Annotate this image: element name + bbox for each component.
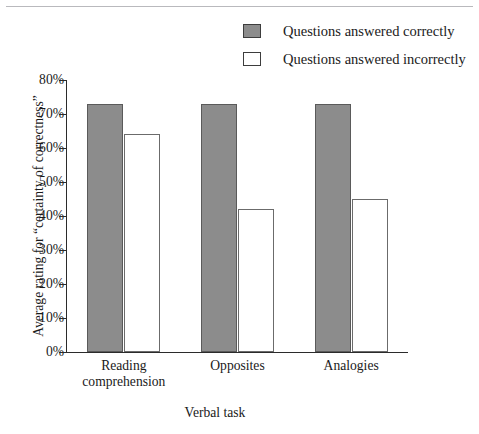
y-axis-tick-mark	[59, 352, 67, 353]
bar-incorrect[interactable]	[238, 209, 274, 352]
y-axis-tick-mark	[59, 284, 67, 285]
bar-correct[interactable]	[87, 104, 123, 352]
x-axis-tick-label: Analogies	[294, 358, 408, 374]
y-axis-tick-mark	[59, 250, 67, 251]
y-axis-tick-mark	[59, 182, 67, 183]
y-axis-tick-mark	[59, 148, 67, 149]
bar-group	[181, 80, 295, 352]
x-axis-tick-label-line: Analogies	[294, 358, 408, 374]
x-axis-title: Verbal task	[0, 405, 430, 421]
bar-group	[67, 80, 181, 352]
x-axis-tick-label-line: Opposites	[181, 358, 295, 374]
bar-correct[interactable]	[315, 104, 351, 352]
plot-area	[67, 80, 408, 352]
bar-correct[interactable]	[201, 104, 237, 352]
x-axis-tick-label-line: comprehension	[67, 374, 181, 390]
y-axis-tick-mark	[59, 114, 67, 115]
y-axis-tick-mark	[59, 318, 67, 319]
x-axis-line	[66, 352, 408, 353]
bar-group	[294, 80, 408, 352]
x-axis-tick-labels: ReadingcomprehensionOppositesAnalogies	[67, 358, 408, 398]
y-axis-tick-mark	[59, 80, 67, 81]
x-axis-tick-label: Readingcomprehension	[67, 358, 181, 390]
x-axis-tick-label-line: Reading	[67, 358, 181, 374]
bar-chart: Average rating for “certainty of correct…	[0, 0, 479, 434]
bar-incorrect[interactable]	[352, 199, 388, 352]
y-axis-tick-mark	[59, 216, 67, 217]
bar-incorrect[interactable]	[124, 134, 160, 352]
x-axis-tick-label: Opposites	[181, 358, 295, 374]
